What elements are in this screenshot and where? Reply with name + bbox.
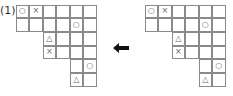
grid-cell xyxy=(43,5,57,19)
grid-cell xyxy=(56,32,70,46)
grid-cell xyxy=(70,5,84,19)
grid-cell xyxy=(199,46,213,60)
grid-cell xyxy=(158,18,172,32)
grid-cell xyxy=(185,32,199,46)
grid-cell: ○ xyxy=(83,59,97,73)
grid-cell: ○ xyxy=(16,5,30,19)
grid-cell: ○ xyxy=(199,18,213,32)
grid-cell xyxy=(56,18,70,32)
grid-cell xyxy=(212,32,226,46)
left-arrow-icon xyxy=(113,43,129,53)
grid-cell: ○ xyxy=(212,59,226,73)
grid-cell: △ xyxy=(199,73,213,87)
grid-cell xyxy=(185,18,199,32)
grid-cell xyxy=(212,73,226,87)
grid-cell: × xyxy=(29,5,43,19)
grid-cell xyxy=(212,5,226,19)
grid-cell xyxy=(212,18,226,32)
grid-cell xyxy=(83,46,97,60)
grid-cell: △ xyxy=(70,73,84,87)
grid-cell xyxy=(70,32,84,46)
grid-cell xyxy=(199,59,213,73)
grid-cell: ○ xyxy=(145,5,159,19)
grid-cell xyxy=(83,73,97,87)
grid-cell xyxy=(16,18,30,32)
grid-cell: △ xyxy=(43,32,57,46)
grid-cell xyxy=(70,46,84,60)
grid-cell: ○ xyxy=(70,18,84,32)
grid-cell xyxy=(199,32,213,46)
grid-cell xyxy=(172,5,186,19)
grid-cell xyxy=(70,59,84,73)
grid-cell xyxy=(212,46,226,60)
grid-cell xyxy=(185,5,199,19)
grid-cell: × xyxy=(43,46,57,60)
grid-cell xyxy=(172,18,186,32)
grid-cell xyxy=(185,46,199,60)
grid-cell xyxy=(43,18,57,32)
grid-cell xyxy=(145,18,159,32)
grid-cell xyxy=(56,46,70,60)
problem-label: (1) xyxy=(0,4,16,17)
grid-cell xyxy=(83,18,97,32)
grid-cell xyxy=(83,32,97,46)
grid-cell xyxy=(29,18,43,32)
grid-cell xyxy=(83,5,97,19)
grid-cell xyxy=(56,5,70,19)
grid-cell: × xyxy=(158,5,172,19)
grid-cell: △ xyxy=(172,32,186,46)
grid-cell: × xyxy=(172,46,186,60)
grid-cell xyxy=(199,5,213,19)
